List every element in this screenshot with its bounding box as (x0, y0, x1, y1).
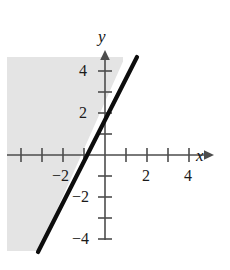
x-tick-label-neg-2: −2 (52, 168, 69, 184)
y-tick-label-2: 2 (79, 105, 87, 121)
y-tick-label-neg-4: −4 (72, 231, 89, 247)
x-axis-label: x (196, 147, 204, 164)
y-tick-label-4: 4 (79, 63, 87, 79)
y-axis-label: y (98, 28, 106, 45)
graph-figure: x y −2 2 4 4 2 −2 −4 (0, 0, 230, 270)
x-tick-label-2: 2 (142, 168, 150, 184)
x-tick-label-4: 4 (184, 168, 192, 184)
coordinate-plane-svg (0, 0, 230, 270)
y-tick-label-neg-2: −2 (72, 189, 89, 205)
